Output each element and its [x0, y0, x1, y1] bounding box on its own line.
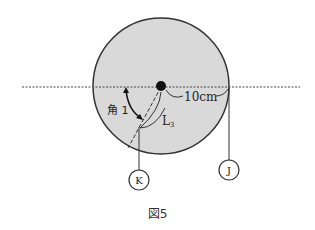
point-j-label: J — [226, 165, 231, 176]
point-k-label: K — [135, 175, 143, 186]
figure-diagram: 10cm 角 1 L3 K J — [0, 0, 315, 230]
radius-label: 10cm — [184, 90, 218, 104]
pivot-point — [156, 81, 166, 91]
figure-caption: 図5 — [0, 204, 315, 221]
angle-label: 角 1 — [107, 104, 129, 117]
